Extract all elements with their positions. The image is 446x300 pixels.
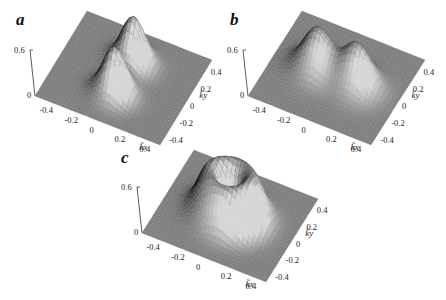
kx-tick-label: -0.4 [146,242,160,252]
ky-tick-label: 0.4 [211,67,222,77]
surface-mesh: 0.60-0.4-0.200.20.4-0.4-0.200.20.4k̃xk̃y [227,11,435,154]
panel-label-b: b [230,10,239,29]
kx-tick-label: -0.2 [277,115,290,125]
figure: a 0.60-0.4-0.200.20.4-0.4-0.200.20.4k̃xk… [0,0,446,300]
kx-tick-label: -0.2 [171,252,184,262]
ky-tick-label: 0 [296,239,300,249]
kx-axis-label: k̃x [351,142,359,152]
kx-tick-label: 0.2 [221,271,232,281]
ky-axis-label: k̃y [411,90,419,100]
ky-axis-label: k̃y [305,228,313,238]
surface-mesh: 0.60-0.4-0.200.20.4-0.4-0.200.20.4k̃xk̃y [14,11,222,154]
ky-tick-label: -0.2 [180,118,193,128]
z-tick-label-top: 0.6 [121,182,132,192]
ky-tick-label: 0 [190,101,194,111]
panel-label-c: c [121,148,129,167]
ky-tick-label: 0.4 [317,205,328,215]
panel-label-a: a [16,10,25,29]
kx-tick-label: -0.2 [65,115,78,125]
surface-mesh: 0.60-0.4-0.200.20.4-0.4-0.200.20.4k̃xk̃y [121,150,328,291]
ky-tick-label: -0.4 [275,272,289,282]
panel-a-surface-plot: a 0.60-0.4-0.200.20.4-0.4-0.200.20.4k̃xk… [14,10,222,154]
kx-tick-label: -0.4 [252,105,266,115]
kx-tick-label: 0 [196,262,200,272]
ky-tick-label: 0.4 [424,67,435,77]
ky-tick-label: -0.4 [169,135,183,145]
kx-axis-label: k̃x [140,142,148,152]
kx-tick-label: 0 [302,125,306,135]
kx-tick-label: 0 [90,125,94,135]
panel-b-surface-plot: b 0.60-0.4-0.200.20.4-0.4-0.200.20.4k̃xk… [227,10,435,154]
ky-tick-label: 0 [402,101,406,111]
ky-tick-label: -0.4 [380,135,394,145]
z-tick-label-top: 0.6 [227,45,238,55]
kx-axis-label: k̃x [246,279,254,289]
kx-tick-label: -0.4 [40,105,54,115]
ky-tick-label: -0.2 [286,255,299,265]
ky-axis-label: k̃y [199,90,207,100]
kx-tick-label: 0.2 [115,134,126,144]
z-tick-label-bottom: 0 [240,90,244,100]
kx-tick-label: 0.2 [326,134,337,144]
z-tick-label-top: 0.6 [14,45,25,55]
z-tick-label-bottom: 0 [134,227,138,237]
panel-c-surface-plot: c 0.60-0.4-0.200.20.4-0.4-0.200.20.4k̃xk… [121,148,328,291]
z-tick-label-bottom: 0 [27,90,31,100]
ky-tick-label: -0.2 [391,118,404,128]
